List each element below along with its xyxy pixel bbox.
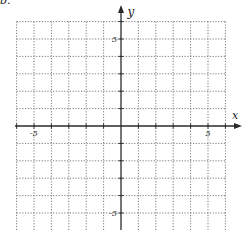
y-axis-label: y bbox=[127, 5, 135, 19]
y-tick-label: -5 bbox=[109, 209, 117, 218]
coordinate-grid-svg: xy-555-5 bbox=[0, 0, 243, 230]
x-axis-arrow-icon bbox=[234, 123, 242, 129]
x-axis-label: x bbox=[232, 109, 239, 122]
x-tick-label: -5 bbox=[30, 129, 38, 138]
coordinate-plane: b. xy-555-5 bbox=[0, 0, 243, 230]
y-tick-label: 5 bbox=[112, 35, 117, 44]
x-tick-label: 5 bbox=[205, 129, 210, 138]
problem-label: b. bbox=[0, 0, 11, 7]
y-axis-arrow-icon bbox=[118, 5, 124, 13]
